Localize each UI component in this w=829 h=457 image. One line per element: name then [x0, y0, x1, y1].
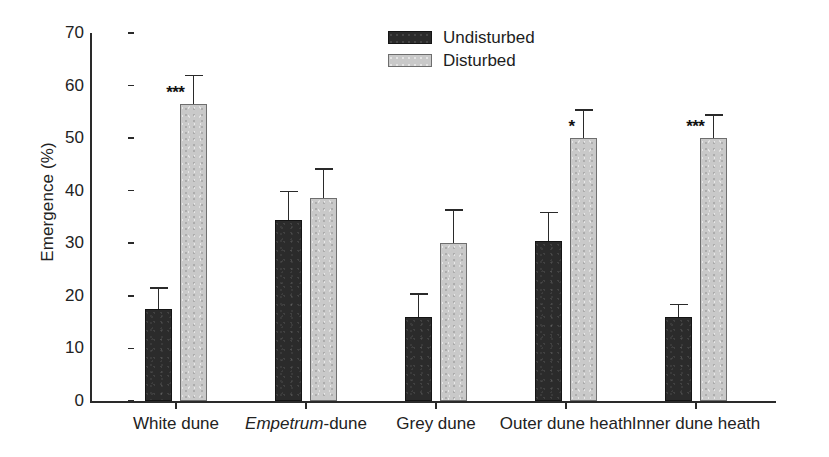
significance-marker: *: [568, 118, 574, 135]
bar-chart-figure: Emergence (%) 706050403020100 White dune…: [0, 0, 829, 457]
error-bar-cap: [280, 191, 298, 193]
significance-marker: ***: [686, 118, 704, 135]
error-bar-stem: [548, 212, 550, 241]
legend-swatch-light: [388, 54, 432, 67]
error-bar-cap: [315, 168, 333, 170]
legend-label: Disturbed: [443, 51, 516, 71]
error-bar-stem: [323, 168, 325, 198]
chart-legend: UndisturbedDisturbed: [388, 28, 535, 74]
y-tick-label: 20: [50, 287, 84, 304]
legend-item: Undisturbed: [388, 28, 535, 47]
bar-undisturbed: [535, 241, 562, 401]
x-tick-label: Empetrum-dune: [245, 414, 367, 434]
bar-undisturbed: [275, 220, 302, 401]
bar-undisturbed: [405, 317, 432, 401]
y-tick-label: 0: [50, 392, 84, 409]
y-tick-label: 50: [50, 129, 84, 146]
bar-disturbed: [570, 138, 597, 401]
error-bar-cap: [670, 304, 688, 306]
bar-disturbed: [180, 104, 207, 401]
x-tick-mark: [565, 402, 567, 409]
bar-undisturbed: [145, 309, 172, 401]
legend-label: Undisturbed: [443, 28, 535, 48]
y-tick-mark: [128, 137, 134, 139]
error-bar-cap: [705, 114, 723, 116]
error-bar-stem: [453, 209, 455, 243]
bar-disturbed: [440, 243, 467, 401]
legend-item: Disturbed: [388, 51, 535, 70]
y-tick-label: 10: [50, 339, 84, 356]
error-bar-stem: [158, 287, 160, 309]
error-bar-cap: [410, 293, 428, 295]
x-axis-line: [90, 401, 776, 403]
y-tick-mark: [128, 190, 134, 192]
y-axis-ticks: 706050403020100: [44, 0, 84, 457]
error-bar-stem: [678, 304, 680, 317]
x-tick-label: Inner dune heath: [632, 414, 761, 434]
x-tick-mark: [695, 402, 697, 409]
y-tick-mark: [128, 242, 134, 244]
x-tick-label: Outer dune heath: [500, 414, 632, 434]
legend-swatch-dark: [388, 31, 432, 44]
bar-disturbed: [310, 198, 337, 401]
y-tick-mark: [128, 348, 134, 350]
error-bar-cap: [540, 212, 558, 214]
error-bar-cap: [185, 75, 203, 77]
error-bar-cap: [575, 109, 593, 111]
error-bar-cap: [150, 287, 168, 289]
error-bar-stem: [583, 109, 585, 138]
error-bar-stem: [713, 114, 715, 138]
x-tick-mark: [305, 402, 307, 409]
y-tick-mark: [128, 32, 134, 34]
x-tick-label: Grey dune: [396, 414, 475, 434]
error-bar-stem: [418, 293, 420, 317]
error-bar-stem: [288, 191, 290, 220]
y-tick-mark: [128, 295, 134, 297]
y-tick-label: 40: [50, 182, 84, 199]
y-tick-label: 70: [50, 24, 84, 41]
y-tick-label: 30: [50, 234, 84, 251]
y-tick-mark: [128, 85, 134, 87]
y-tick-label: 60: [50, 77, 84, 94]
bar-undisturbed: [665, 317, 692, 401]
error-bar-stem: [193, 75, 195, 104]
error-bar-cap: [445, 209, 463, 211]
x-tick-mark: [435, 402, 437, 409]
significance-marker: ***: [166, 84, 184, 101]
y-axis-line: [90, 33, 92, 402]
bar-disturbed: [700, 138, 727, 401]
x-tick-mark: [175, 402, 177, 409]
x-tick-label: White dune: [133, 414, 219, 434]
